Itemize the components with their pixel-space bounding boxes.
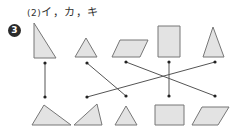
connection-dot: [124, 60, 127, 63]
top-5-isosceles-triangle-shape: [203, 27, 224, 57]
matching-diagram: [0, 0, 236, 131]
connection-lines: [45, 62, 215, 97]
bottom-shapes-row: [32, 104, 229, 125]
connection-dot: [124, 94, 127, 97]
connection-dot: [167, 94, 170, 97]
bottom-2-acute-triangle-shape: [74, 104, 102, 125]
top-4-rectangle-shape: [158, 26, 180, 57]
connection-dot: [43, 61, 46, 64]
connection-dot: [85, 61, 88, 64]
connection-line: [87, 63, 126, 96]
connection-dot: [213, 60, 216, 63]
connection-dot: [213, 94, 216, 97]
bottom-5-parallelogram-shape: [192, 107, 229, 125]
connection-dots: [43, 60, 216, 98]
top-1-right-triangle-shape: [34, 23, 56, 58]
top-3-parallelogram-shape: [112, 40, 148, 57]
connection-dot: [167, 60, 170, 63]
bottom-1-obtuse-triangle-shape: [32, 105, 71, 125]
bottom-3-small-triangle-shape: [115, 106, 137, 125]
connection-line: [126, 62, 215, 96]
connection-dot: [85, 95, 88, 98]
top-2-small-triangle-shape: [75, 38, 97, 57]
bottom-4-rectangle-shape: [155, 105, 184, 125]
connection-dot: [43, 95, 46, 98]
top-shapes-row: [34, 23, 224, 58]
